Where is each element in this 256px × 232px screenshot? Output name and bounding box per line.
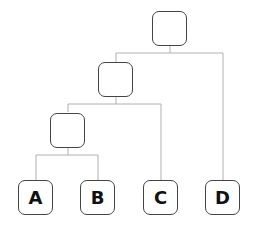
root-node: [152, 11, 187, 46]
leaf-node-b: B: [80, 180, 115, 215]
leaf-node-a: A: [18, 180, 53, 215]
leaf-node-c: C: [143, 180, 178, 215]
leaf-node-d: D: [205, 180, 240, 215]
internal-node-1: [98, 62, 133, 97]
internal-node-2: [50, 113, 85, 148]
